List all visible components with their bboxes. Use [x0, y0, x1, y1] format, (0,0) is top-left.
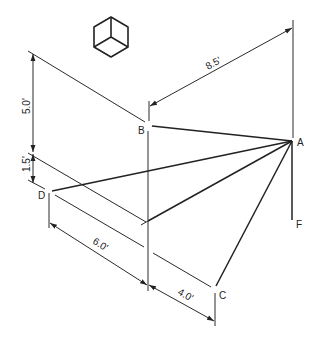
dim-4-0: 4.0' — [176, 286, 195, 303]
line-a-d — [52, 141, 292, 191]
point-labels: A B C D F — [38, 125, 304, 301]
line-a-b — [152, 126, 292, 141]
extension-lines — [28, 20, 293, 326]
dim-8-5: 8.5' — [204, 54, 223, 71]
label-a: A — [297, 137, 304, 148]
isometric-cube-icon — [94, 17, 128, 57]
cable-lines — [52, 126, 292, 286]
label-c: C — [219, 290, 226, 301]
dimension-lines — [33, 28, 292, 321]
label-f: F — [296, 219, 302, 230]
dimension-labels: 8.5' 5.0' 1.5' 6.0' 4.0' — [21, 54, 223, 303]
label-b: B — [138, 125, 145, 136]
dim-1-5: 1.5' — [21, 156, 32, 172]
dim-5-0: 5.0' — [21, 98, 32, 114]
label-d: D — [38, 190, 45, 201]
isometric-cable-diagram: 8.5' 5.0' 1.5' 6.0' 4.0' A B C D F — [0, 0, 316, 337]
